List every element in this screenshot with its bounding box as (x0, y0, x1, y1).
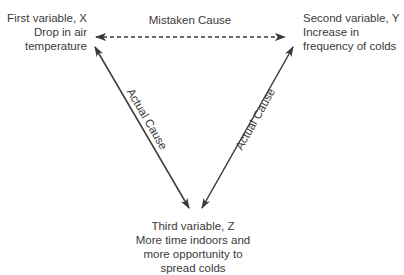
node-second-variable-y: Second variable, Y Increase in frequency… (303, 11, 399, 53)
actual-cause-arrow-x-z (95, 47, 189, 208)
node-z-line-3: spread colds (113, 261, 273, 275)
node-x-title: First variable, X (7, 11, 87, 25)
mistaken-cause-label: Mistaken Cause (140, 14, 240, 26)
node-z-line-2: more opportunity to (113, 247, 273, 261)
node-z-line-1: More time indoors and (113, 233, 273, 247)
node-y-title: Second variable, Y (303, 11, 399, 25)
node-third-variable-z: Third variable, Z More time indoors and … (113, 219, 273, 275)
node-z-title: Third variable, Z (113, 219, 273, 233)
node-x-line-2: temperature (7, 39, 87, 53)
node-y-line-2: frequency of colds (303, 39, 399, 53)
node-first-variable-x: First variable, X Drop in air temperatur… (7, 11, 87, 53)
node-x-line-1: Drop in air (7, 25, 87, 39)
node-y-line-1: Increase in (303, 25, 399, 39)
